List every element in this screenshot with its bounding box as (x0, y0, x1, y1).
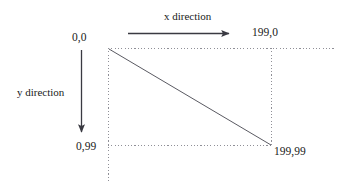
corner-label-top-right: 199,0 (252, 27, 278, 39)
corner-label-top-left: 0,0 (72, 32, 86, 44)
y-direction-label: y direction (17, 87, 64, 98)
corner-label-bottom-right: 199,99 (274, 146, 306, 158)
corner-label-bottom-left: 0,99 (76, 141, 96, 153)
x-direction-label: x direction (164, 11, 211, 22)
diagram-canvas: x direction y direction 0,0 199,0 0,99 1… (0, 0, 348, 187)
corner-to-corner-diagonal (109, 49, 271, 145)
